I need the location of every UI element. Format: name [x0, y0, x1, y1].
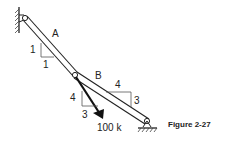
load-slope-horizontal: 3	[82, 109, 88, 120]
slope-triangle-a	[41, 43, 54, 57]
slope-a-rise: 1	[30, 44, 36, 55]
load-slope-vertical: 4	[70, 92, 76, 103]
load-arrow	[76, 77, 104, 119]
ground-support	[138, 121, 157, 132]
member-a-label: A	[52, 28, 59, 39]
figure-caption: Figure 2-27	[168, 120, 211, 129]
load-label: 100 k	[97, 122, 122, 133]
slope-a-run: 1	[43, 59, 49, 70]
pin-left	[22, 15, 27, 20]
member-b-label: B	[95, 70, 102, 81]
slope-b-rise: 3	[134, 95, 140, 106]
slope-b-run: 4	[115, 79, 121, 90]
structure-diagram: A 1 1 B 4 3 4 3 100 k Figure 2-27	[0, 0, 228, 146]
